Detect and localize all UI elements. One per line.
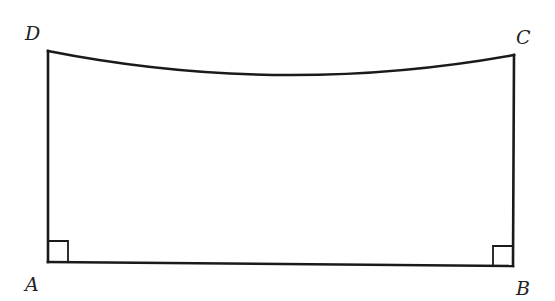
vertex-label-a: A [23,273,39,295]
side-bc [513,55,514,266]
side-ab [48,262,513,266]
quadrilateral-diagram: D C A B [0,0,555,301]
vertex-label-b: B [515,277,530,299]
vertex-label-c: C [516,26,531,48]
arc-dc [48,51,514,75]
right-angle-marker-a [49,241,68,262]
vertex-label-d: D [24,22,40,44]
right-angle-marker-b [493,246,512,266]
